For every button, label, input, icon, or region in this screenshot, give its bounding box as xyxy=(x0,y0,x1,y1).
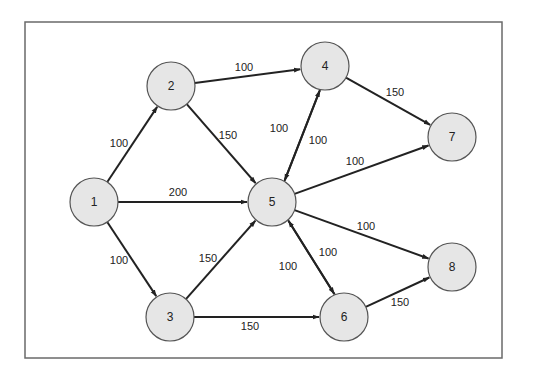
node-label: 6 xyxy=(341,310,348,324)
edge-weight-label: 200 xyxy=(169,186,187,198)
edge-weight-label: 150 xyxy=(391,296,409,308)
edge-weight-label: 100 xyxy=(235,61,253,73)
node-7: 7 xyxy=(428,113,476,161)
node-label: 4 xyxy=(322,59,329,73)
node-1: 1 xyxy=(70,178,118,226)
node-3: 3 xyxy=(146,293,194,341)
edge-weight-label: 100 xyxy=(357,220,375,232)
node-2: 2 xyxy=(147,62,195,110)
network-diagram: 1002001001001501501501001001501001001001… xyxy=(0,0,543,377)
node-label: 8 xyxy=(449,260,456,274)
edge-weight-label: 150 xyxy=(386,86,404,98)
node-5: 5 xyxy=(248,178,296,226)
edge-weight-label: 100 xyxy=(319,246,337,258)
edge-weight-label: 100 xyxy=(270,122,288,134)
node-label: 2 xyxy=(168,79,175,93)
node-8: 8 xyxy=(428,243,476,291)
edge-weight-label: 100 xyxy=(346,155,364,167)
node-label: 3 xyxy=(167,310,174,324)
node-label: 5 xyxy=(269,195,276,209)
edge-weight-label: 100 xyxy=(279,260,297,272)
edge-weight-label: 100 xyxy=(110,137,128,149)
edge-weight-label: 150 xyxy=(219,129,237,141)
edge-weight-label: 150 xyxy=(241,320,259,332)
node-4: 4 xyxy=(301,42,349,90)
edge-weight-label: 100 xyxy=(110,254,128,266)
node-label: 7 xyxy=(449,130,456,144)
node-6: 6 xyxy=(320,293,368,341)
edge-weight-label: 100 xyxy=(309,134,327,146)
node-label: 1 xyxy=(91,195,98,209)
edge-weight-label: 150 xyxy=(199,252,217,264)
